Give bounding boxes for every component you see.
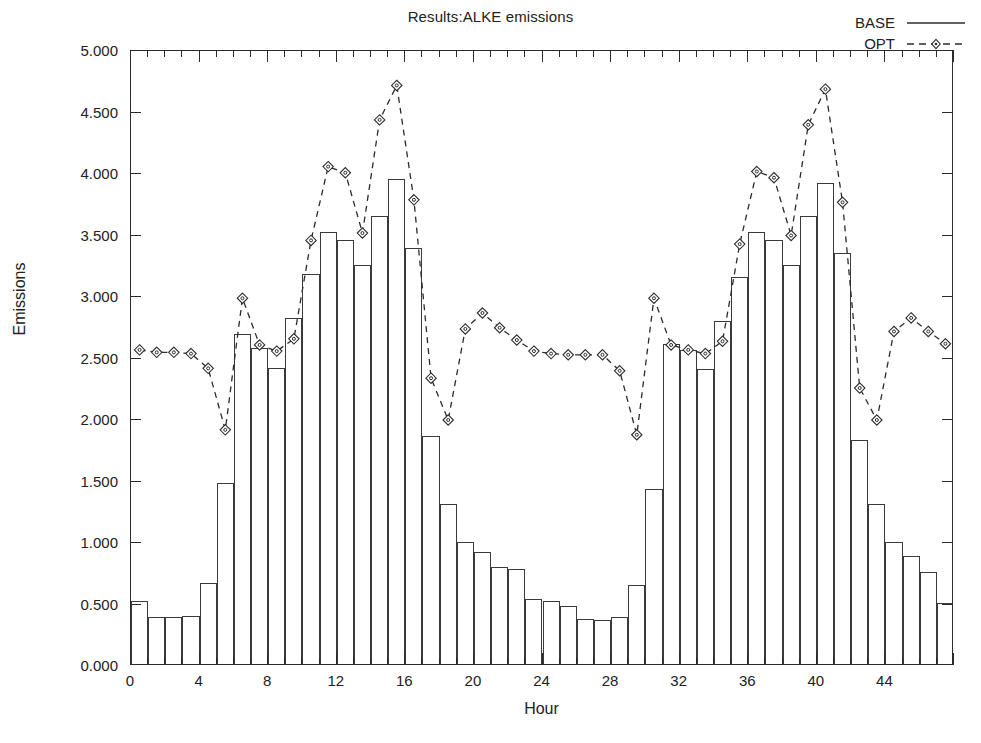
x-axis-minor-tick [250, 658, 251, 665]
x-axis-tick-top [559, 50, 560, 57]
x-axis-tick-top [610, 50, 611, 62]
x-axis-minor-tick [713, 658, 714, 665]
data-point-marker-diamond-icon [340, 168, 350, 178]
x-axis-minor-tick [164, 658, 165, 665]
x-axis-tick-top [902, 50, 903, 57]
x-axis-minor-tick [576, 658, 577, 665]
x-axis-minor-tick [421, 658, 422, 665]
y-axis-tick-label: 4.000 [80, 165, 118, 182]
x-axis-tick-top [507, 50, 508, 57]
x-axis-tick-top [782, 50, 783, 57]
bar [868, 504, 885, 664]
x-axis-tick-top [490, 50, 491, 57]
x-axis-tick-top [679, 50, 680, 62]
x-axis-minor-tick [644, 658, 645, 665]
x-axis-major-tick [199, 653, 200, 665]
x-axis-major-tick [679, 653, 680, 665]
data-point-marker-diamond-icon [752, 166, 762, 176]
y-axis-tick-label: 1.000 [80, 534, 118, 551]
bar [765, 240, 782, 664]
x-axis-tick-label: 20 [465, 672, 482, 689]
x-axis-tick-label: 36 [739, 672, 756, 689]
bar [405, 248, 422, 664]
x-axis-minor-tick [370, 658, 371, 665]
bar [817, 183, 834, 664]
data-point-marker-diamond-icon [906, 313, 916, 323]
data-point-marker-diamond-icon [203, 363, 213, 373]
x-axis-tick-top [473, 50, 474, 62]
x-axis-minor-tick [439, 658, 440, 665]
x-axis-tick-top [267, 50, 268, 62]
bar [714, 321, 731, 664]
x-axis-tick-top [627, 50, 628, 57]
data-point-marker-diamond-icon [134, 345, 144, 355]
data-point-marker-diamond-icon [837, 197, 847, 207]
bar [388, 179, 405, 664]
bar [200, 583, 217, 664]
x-axis-tick-top [164, 50, 165, 57]
bar [560, 606, 577, 664]
data-point-marker-diamond-icon [392, 80, 402, 90]
x-axis-major-tick [747, 653, 748, 665]
bar [320, 232, 337, 664]
data-point-marker-diamond-icon [512, 335, 522, 345]
data-point-marker-diamond-icon [220, 425, 230, 435]
x-axis-tick-top [730, 50, 731, 57]
x-axis-major-tick [542, 653, 543, 665]
x-axis-tick-top [833, 50, 834, 57]
bar [577, 619, 594, 665]
bar [594, 620, 611, 664]
x-axis-tick-top [284, 50, 285, 57]
data-point-marker-diamond-icon [734, 239, 744, 249]
x-axis-major-tick [884, 653, 885, 665]
bar [354, 265, 371, 664]
x-axis-tick-top [301, 50, 302, 57]
x-axis-tick-top [216, 50, 217, 57]
data-point-marker-diamond-icon [614, 366, 624, 376]
x-axis-tick-top [953, 50, 954, 62]
x-axis-major-tick [130, 653, 131, 665]
data-point-marker-diamond-icon [443, 415, 453, 425]
bar [234, 334, 251, 664]
x-axis-minor-tick [456, 658, 457, 665]
x-axis-tick-top [764, 50, 765, 57]
bar [285, 318, 302, 664]
x-axis-tick-top [576, 50, 577, 57]
bar [182, 616, 199, 664]
data-point-marker-diamond-icon [580, 350, 590, 360]
data-point-marker-diamond-icon [460, 324, 470, 334]
x-axis-tick-top [850, 50, 851, 57]
data-point-marker-diamond-icon [426, 373, 436, 383]
bar [268, 368, 285, 664]
bar [680, 350, 697, 664]
x-axis-minor-tick [233, 658, 234, 665]
y-axis-tick-label: 3.500 [80, 226, 118, 243]
x-axis-minor-tick [301, 658, 302, 665]
x-axis-tick-top [747, 50, 748, 62]
x-axis-tick-top [319, 50, 320, 57]
data-point-marker-diamond-icon [854, 383, 864, 393]
bar [800, 216, 817, 664]
x-axis-tick-label: 8 [263, 672, 271, 689]
data-point-marker-diamond-icon [940, 339, 950, 349]
x-axis-tick-label: 4 [194, 672, 202, 689]
x-axis-minor-tick [524, 658, 525, 665]
x-axis-minor-tick [319, 658, 320, 665]
plot-area [130, 50, 953, 665]
bar [217, 483, 234, 664]
x-axis-tick-top [130, 50, 131, 62]
data-point-marker-diamond-icon [786, 230, 796, 240]
x-axis-tick-top [799, 50, 800, 57]
bar [885, 542, 902, 664]
x-axis-major-tick [404, 653, 405, 665]
x-axis-minor-tick [387, 658, 388, 665]
bar [663, 344, 680, 664]
bar [422, 436, 439, 664]
x-axis-minor-tick [696, 658, 697, 665]
x-axis-minor-tick [490, 658, 491, 665]
legend-label-base: BASE [851, 14, 895, 31]
x-axis-tick-top [439, 50, 440, 57]
x-axis-minor-tick [799, 658, 800, 665]
bar [131, 601, 148, 664]
x-axis-minor-tick [936, 658, 937, 665]
